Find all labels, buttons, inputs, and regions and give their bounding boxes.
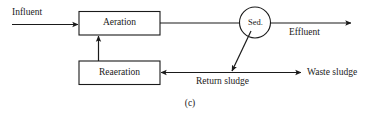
process-flow-diagram: Influent Aeration Sed. Effluent Reaerati… [0,0,378,118]
effluent-label: Effluent [289,28,320,38]
influent-label: Influent [12,8,42,18]
reaeration-label: Reaeration [79,68,160,78]
figure-caption: (c) [180,99,200,109]
sludge-underflow-arrow [232,31,251,71]
return-sludge-label: Return sludge [196,77,249,87]
waste-sludge-label: Waste sludge [307,68,357,78]
sedimentation-label: Sed. [241,18,270,27]
aeration-label: Aeration [79,18,160,28]
